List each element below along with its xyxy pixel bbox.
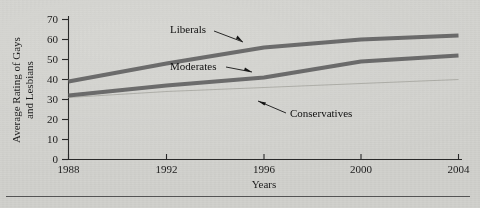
y-tick-label-30: 30 <box>47 93 59 105</box>
y-tick-label-60: 60 <box>47 33 59 45</box>
figure-panel: 70 60 50 40 30 20 10 0 1988 1992 1996 20… <box>0 0 480 208</box>
y-axis-title-line1: Average Rating of Gays <box>10 37 22 143</box>
leader-line-liberals <box>214 31 243 42</box>
line-chart: 70 60 50 40 30 20 10 0 1988 1992 1996 20… <box>0 0 480 208</box>
x-tick-label-2004: 2004 <box>448 163 471 175</box>
x-tick-label-2000: 2000 <box>350 163 373 175</box>
y-tick-label-20: 20 <box>47 113 59 125</box>
x-tick-label-1988: 1988 <box>58 163 81 175</box>
x-axis-title: Years <box>252 178 277 190</box>
y-tick-label-10: 10 <box>47 133 59 145</box>
x-tick-marks <box>69 154 459 160</box>
x-tick-label-1996: 1996 <box>253 163 276 175</box>
y-axis-title-line2: and Lesbians <box>23 61 35 119</box>
series-label-liberals: Liberals <box>170 23 206 35</box>
y-tick-label-40: 40 <box>47 73 59 85</box>
x-tick-label-1992: 1992 <box>156 163 178 175</box>
series-label-moderates: Moderates <box>170 60 216 72</box>
series-label-conservatives: Conservatives <box>290 107 352 119</box>
y-tick-marks <box>62 20 69 160</box>
x-tick-labels: 1988 1992 1996 2000 2004 <box>58 163 471 175</box>
y-tick-labels: 70 60 50 40 30 20 10 0 <box>47 13 59 165</box>
annotation-group: Liberals Moderates Conservatives <box>170 23 352 119</box>
leader-arrow-conservatives <box>258 101 266 106</box>
y-tick-label-70: 70 <box>47 13 59 25</box>
series-line-moderates <box>69 56 459 96</box>
y-tick-label-50: 50 <box>47 53 59 65</box>
series-group <box>69 36 459 98</box>
